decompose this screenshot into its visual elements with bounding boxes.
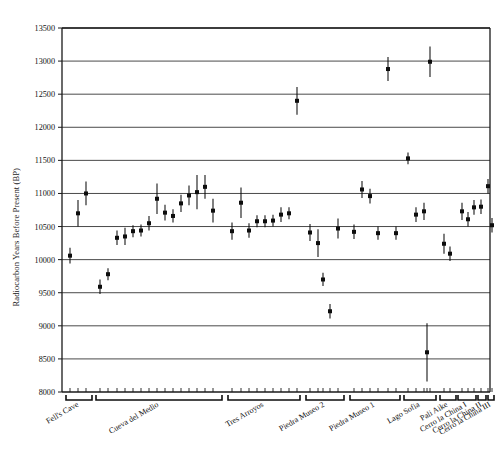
data-point-marker bbox=[490, 223, 494, 227]
group-bracket bbox=[228, 395, 300, 400]
data-point-marker bbox=[466, 217, 470, 221]
data-point-marker bbox=[255, 219, 259, 223]
data-point-marker bbox=[368, 194, 372, 198]
x-group-label: Piedra Museo 2 bbox=[277, 400, 326, 433]
data-point-marker bbox=[123, 234, 127, 238]
x-group-label: Tres Arroyos bbox=[224, 400, 265, 429]
y-tick-label: 11500 bbox=[35, 156, 55, 165]
data-point-marker bbox=[442, 242, 446, 246]
data-point-marker bbox=[155, 197, 159, 201]
data-point-marker bbox=[171, 214, 175, 218]
data-point-marker bbox=[316, 241, 320, 245]
data-point-marker bbox=[76, 211, 80, 215]
data-point-marker bbox=[414, 213, 418, 217]
y-tick-label: 11000 bbox=[35, 189, 55, 198]
data-point-marker bbox=[486, 184, 490, 188]
data-point-marker bbox=[239, 201, 243, 205]
y-tick-label: 8000 bbox=[39, 388, 55, 397]
data-point-marker bbox=[263, 219, 267, 223]
y-tick-label: 10000 bbox=[35, 256, 55, 265]
data-point-marker bbox=[203, 185, 207, 189]
data-point-marker bbox=[321, 277, 325, 281]
x-axis-group-labels: Fell's CaveCueva del MedioTres ArroyosPi… bbox=[44, 400, 492, 437]
y-axis-tick-labels: 8000850090009500100001050011000115001200… bbox=[35, 24, 55, 397]
data-points bbox=[68, 47, 494, 382]
x-group-label: Fell's Cave bbox=[44, 400, 80, 426]
data-point-marker bbox=[131, 229, 135, 233]
plot-area: 8000850090009500100001050011000115001200… bbox=[0, 0, 500, 474]
y-tick-label: 8500 bbox=[39, 355, 55, 364]
data-point-marker bbox=[295, 99, 299, 103]
group-brackets bbox=[66, 395, 494, 400]
group-bracket bbox=[458, 395, 476, 400]
data-point-marker bbox=[428, 60, 432, 64]
chart-svg: 8000850090009500100001050011000115001200… bbox=[0, 0, 500, 474]
data-point-marker bbox=[179, 201, 183, 205]
data-point-marker bbox=[386, 67, 390, 71]
data-point-marker bbox=[163, 211, 167, 215]
data-point-marker bbox=[247, 229, 251, 233]
data-point-marker bbox=[336, 227, 340, 231]
group-bracket bbox=[350, 395, 400, 400]
data-point-marker bbox=[425, 350, 429, 354]
data-point-marker bbox=[211, 209, 215, 213]
data-point-marker bbox=[279, 213, 283, 217]
data-point-marker bbox=[448, 252, 452, 256]
data-point-marker bbox=[472, 205, 476, 209]
group-bracket bbox=[66, 395, 92, 400]
y-tick-label: 13000 bbox=[35, 57, 55, 66]
data-point-marker bbox=[84, 191, 88, 195]
x-group-label: Cueva del Medio bbox=[107, 400, 160, 436]
data-point-marker bbox=[376, 231, 380, 235]
x-group-label: Piedra Museo 1 bbox=[327, 400, 376, 433]
group-bracket bbox=[478, 395, 486, 400]
group-bracket bbox=[306, 395, 344, 400]
group-bracket bbox=[96, 395, 222, 400]
data-point-marker bbox=[271, 219, 275, 223]
data-point-marker bbox=[479, 205, 483, 209]
radiocarbon-figure: Radiocarbon Years Before Present (BP) 80… bbox=[0, 0, 500, 474]
group-bracket bbox=[404, 395, 436, 400]
y-tick-label: 12000 bbox=[35, 123, 55, 132]
y-tick-label: 12500 bbox=[35, 90, 55, 99]
data-point-marker bbox=[394, 231, 398, 235]
data-point-marker bbox=[139, 229, 143, 233]
data-point-marker bbox=[106, 272, 110, 276]
group-bracket bbox=[440, 395, 456, 400]
data-point-marker bbox=[406, 156, 410, 160]
data-point-marker bbox=[422, 209, 426, 213]
data-point-marker bbox=[195, 190, 199, 194]
data-point-marker bbox=[460, 209, 464, 213]
x-group-label: Lago Sofia bbox=[386, 400, 422, 426]
group-bracket bbox=[488, 395, 494, 400]
data-point-marker bbox=[287, 211, 291, 215]
data-point-marker bbox=[230, 229, 234, 233]
data-point-marker bbox=[98, 285, 102, 289]
data-point-marker bbox=[352, 230, 356, 234]
data-point-marker bbox=[187, 193, 191, 197]
data-point-marker bbox=[147, 221, 151, 225]
y-tick-label: 9500 bbox=[39, 289, 55, 298]
data-point-marker bbox=[68, 254, 72, 258]
y-tick-label: 10500 bbox=[35, 223, 55, 232]
data-point-marker bbox=[360, 187, 364, 191]
y-tick-label: 9000 bbox=[39, 322, 55, 331]
gridlines bbox=[62, 28, 490, 359]
data-point-marker bbox=[308, 231, 312, 235]
data-point-marker bbox=[115, 236, 119, 240]
data-point-marker bbox=[328, 309, 332, 313]
y-tick-label: 13500 bbox=[35, 24, 55, 33]
